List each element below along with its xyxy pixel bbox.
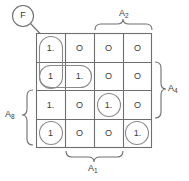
axis-label-a4: A4: [168, 83, 178, 93]
kmap-cell-r4c4: 1.: [123, 119, 152, 147]
axis-label-a2-sub: 2: [125, 12, 129, 19]
kmap-cell-r3c1: 1.: [36, 91, 65, 119]
axis-label-a1: A1: [88, 163, 98, 173]
kmap-cell-r4c3: O: [94, 119, 123, 147]
kmap-cell-r1c4: O: [123, 34, 152, 62]
function-callout-leader: [31, 24, 41, 34]
kmap-cell-r3c2: O: [65, 91, 94, 119]
bracket-left: [22, 90, 33, 145]
kmap-cell-r2c2: 1.: [65, 62, 94, 90]
kmap-cell-r2c1: 1: [36, 62, 65, 90]
kmap-cell-r3c3: 1.: [94, 91, 123, 119]
kmap-cell-r1c2: O: [65, 34, 94, 62]
axis-label-a8-sub: 8: [11, 113, 15, 120]
kmap-cell-r4c1: 1: [36, 119, 65, 147]
kmap-cell-r3c4: O: [123, 91, 152, 119]
kmap-cell-r1c3: O: [94, 34, 123, 62]
axis-label-a1-sub: 1: [94, 167, 98, 174]
kmap-cell-r1c1: 1.: [36, 34, 65, 62]
kmap-cell-r2c4: O: [123, 62, 152, 90]
bracket-right: [155, 62, 166, 118]
axis-label-a8: A8: [5, 109, 15, 119]
axis-label-a4-sub: 4: [174, 87, 178, 94]
bracket-top: [95, 19, 152, 30]
function-label: F: [13, 10, 33, 20]
bracket-bottom: [66, 151, 123, 162]
karnaugh-map-diagram: F 1. O O O 1 1. O O 1. O 1. O 1 O O 1. A…: [0, 0, 189, 181]
axis-label-a2: A2: [119, 8, 129, 18]
kmap-cell-r4c2: O: [65, 119, 94, 147]
kmap-cell-r2c3: O: [94, 62, 123, 90]
